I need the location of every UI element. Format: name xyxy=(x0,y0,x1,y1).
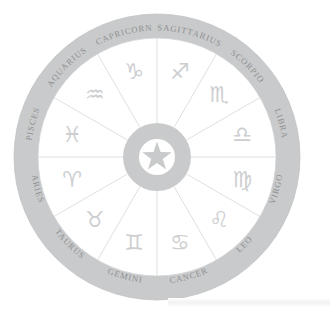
sign-glyph-scorpio: ♏ xyxy=(209,82,229,107)
sign-glyph-gemini: ♊ xyxy=(124,230,144,255)
sign-glyph-virgo: ♍ xyxy=(232,167,252,192)
sign-glyph-aries: ♈ xyxy=(62,167,82,192)
sign-glyph-aquarius: ♒ xyxy=(85,82,105,107)
sign-glyph-capricorn: ♑ xyxy=(124,59,144,84)
sign-glyph-pisces: ♓ xyxy=(62,122,82,147)
zodiac-wheel-svg: SAGITTARIUSSCORPIOLIBRAVIRGOLEOCANCERGEM… xyxy=(0,0,330,317)
sign-glyph-cancer: ♋ xyxy=(170,230,190,255)
sign-glyph-libra: ♎ xyxy=(232,122,252,147)
zodiac-wheel-figure: SAGITTARIUSSCORPIOLIBRAVIRGOLEOCANCERGEM… xyxy=(0,0,330,317)
sign-glyph-leo: ♌ xyxy=(209,207,229,232)
sign-glyph-taurus: ♉ xyxy=(85,207,105,232)
sign-glyph-sagittarius: ♐ xyxy=(170,59,190,84)
